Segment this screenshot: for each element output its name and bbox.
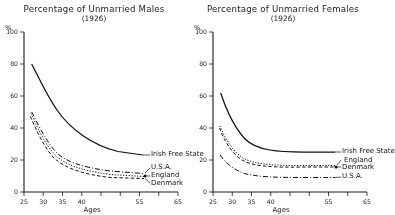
x-ticks-females bbox=[213, 192, 367, 196]
panel-females: Percentage of Unmarried Females (1926) %… bbox=[189, 0, 377, 215]
series-line-usa-males bbox=[32, 112, 144, 174]
series-label-denmark-females: Denmark bbox=[342, 163, 374, 171]
leader-usa-males bbox=[145, 168, 150, 173]
y-tick-label: 100 bbox=[195, 28, 207, 35]
x-tick-label: 35 bbox=[248, 198, 256, 205]
y-tick-label: 20 bbox=[199, 156, 207, 163]
x-tick-label: 35 bbox=[59, 198, 67, 205]
x-axis-title-females: Ages bbox=[272, 206, 290, 214]
series-label-england-males: England bbox=[151, 171, 179, 179]
leader-dot-females bbox=[335, 166, 338, 169]
plot-area-females: 100 80 60 40 20 0 25 30 bbox=[189, 0, 377, 215]
x-axis-title-males: Ages bbox=[83, 206, 101, 214]
x-tick-label: 40 bbox=[78, 198, 86, 205]
x-ticks-males bbox=[24, 192, 178, 196]
y-tick-label: 100 bbox=[6, 28, 18, 35]
x-tick-label: 65 bbox=[174, 198, 182, 205]
series-label-usa-males: U.S.A. bbox=[151, 163, 172, 171]
y-tick-label: 0 bbox=[203, 188, 207, 195]
x-tick-label: 30 bbox=[228, 198, 236, 205]
y-tick-label: 20 bbox=[10, 156, 18, 163]
y-ticks-females bbox=[209, 32, 213, 192]
x-tick-label: 25 bbox=[20, 198, 28, 205]
x-tick-label: 55 bbox=[136, 198, 144, 205]
y-tick-label: 0 bbox=[14, 188, 18, 195]
x-tick-label: 30 bbox=[39, 198, 47, 205]
leader-dot-males bbox=[144, 175, 147, 178]
panel-males: Percentage of Unmarried Males (1926) % 1… bbox=[0, 0, 188, 215]
y-tick-label: 60 bbox=[10, 92, 18, 99]
series-line-denmark-males bbox=[30, 117, 144, 179]
x-tick-label: 65 bbox=[363, 198, 371, 205]
x-tick-label: 40 bbox=[267, 198, 275, 205]
series-line-irish-free-state-females bbox=[221, 93, 335, 152]
y-tick-label: 40 bbox=[10, 124, 18, 131]
series-line-usa-females bbox=[220, 155, 335, 178]
y-tick-label: 80 bbox=[10, 60, 18, 67]
x-tick-label: 55 bbox=[325, 198, 333, 205]
leader-usa-females bbox=[335, 177, 341, 178]
leader-denmark-males bbox=[145, 179, 150, 184]
series-line-denmark-females bbox=[220, 128, 335, 167]
series-label-usa-females: U.S.A. bbox=[342, 172, 363, 180]
y-tick-label: 40 bbox=[199, 124, 207, 131]
series-label-irish-free-state-females: Irish Free State bbox=[342, 147, 395, 155]
series-line-england-females bbox=[220, 126, 335, 166]
leader-england-females bbox=[337, 160, 341, 165]
series-label-denmark-males: Denmark bbox=[151, 179, 183, 187]
x-tick-label: 25 bbox=[209, 198, 217, 205]
y-tick-label: 80 bbox=[199, 60, 207, 67]
y-ticks-males bbox=[20, 32, 24, 192]
y-tick-label: 60 bbox=[199, 92, 207, 99]
